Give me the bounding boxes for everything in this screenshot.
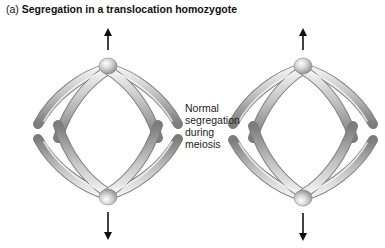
caption-line: meiosis [185,138,240,150]
left-cell [38,32,178,236]
segregation-caption: Normal segregation during meiosis [185,102,240,150]
caption-line: during [185,126,240,138]
lower-chromosomes [233,126,373,206]
right-cell [233,32,373,237]
caption-line: Normal [185,102,240,114]
caption-line: segregation [185,114,240,126]
lower-chromosomes [38,125,178,205]
